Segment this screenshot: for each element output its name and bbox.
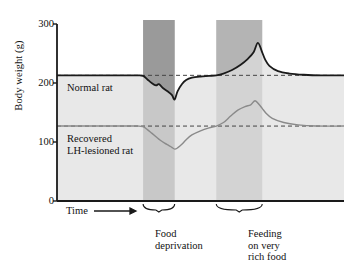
area-layer [57, 43, 344, 201]
band-label-rich-food: Feeding on very rich food [248, 228, 286, 263]
series-label-lesioned: Recovered LH-lesioned rat [67, 133, 133, 156]
band-food-deprivation-overlay [143, 20, 175, 201]
chart-figure: Body weight (g) 300 200 100 0 Time Norma… [0, 0, 346, 268]
y-tick-label-0: 0 [22, 195, 54, 206]
y-tick-label-200: 200 [22, 77, 54, 88]
area-normal [57, 43, 344, 201]
brace-food-deprivation-icon [143, 204, 175, 212]
brace-rich-food-icon [216, 204, 262, 212]
band-label-food-deprivation: Food deprivation [155, 228, 203, 251]
y-axis-title: Body weight (g) [13, 21, 24, 131]
y-tick-label-300: 300 [22, 18, 54, 29]
y-tick-label-100: 100 [22, 136, 54, 147]
time-arrow-icon [94, 208, 136, 214]
x-axis-title: Time [66, 205, 88, 216]
series-label-normal: Normal rat [67, 82, 113, 94]
